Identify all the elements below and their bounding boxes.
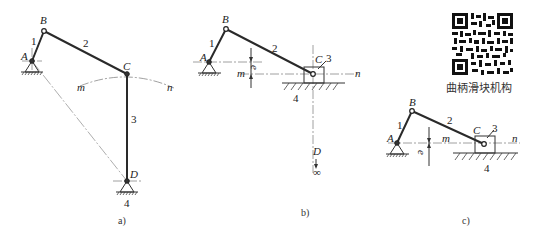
figure-b-slider-crank-derived: e B — [193, 13, 361, 219]
joint-a — [207, 60, 212, 65]
label-n: n — [512, 132, 518, 144]
label-d: D — [312, 145, 321, 157]
joint-a — [395, 141, 400, 146]
label-m: m — [77, 81, 85, 93]
label-link-4: 4 — [293, 92, 299, 104]
label-c: C — [123, 60, 131, 72]
label-a: A — [199, 51, 207, 63]
offset-dimension-e — [427, 127, 431, 166]
joint-b — [42, 29, 47, 34]
label-c: C — [315, 53, 323, 65]
ground-guide-icon — [453, 153, 518, 160]
caption-c: c) — [462, 215, 470, 227]
label-n: n — [355, 67, 361, 79]
label-infinity: ∞ — [313, 166, 321, 178]
label-link-2: 2 — [83, 37, 89, 49]
ground-guide-icon — [282, 83, 345, 90]
label-link-1: 1 — [31, 35, 37, 47]
label-c: C — [473, 124, 481, 136]
joint-c — [482, 142, 487, 147]
label-link-3: 3 — [131, 113, 137, 125]
label-d: D — [129, 168, 138, 180]
frame-line-ad — [32, 61, 127, 181]
label-m: m — [237, 67, 245, 79]
figure-c-offset-slider-crank: e B 1 A 2 m — [386, 96, 520, 227]
joint-d — [125, 179, 130, 184]
label-offset-e: e — [249, 65, 261, 70]
label-a: A — [20, 50, 28, 62]
label-link-2: 2 — [272, 42, 278, 54]
label-link-3: 3 — [326, 52, 332, 64]
label-link-4: 4 — [124, 197, 130, 209]
label-a: A — [386, 132, 394, 144]
qr-caption: 曲柄滑块机构 — [446, 81, 512, 95]
joint-a — [30, 59, 35, 64]
label-offset-e: e — [416, 150, 428, 155]
caption-a: a) — [118, 215, 126, 227]
label-link-3: 3 — [492, 122, 498, 134]
label-link-4: 4 — [484, 162, 490, 174]
label-link-1: 1 — [397, 119, 403, 131]
figure-a-four-bar-linkage: B 1 A 2 C m n 3 D 4 a) — [20, 14, 174, 227]
joint-c — [125, 72, 130, 77]
label-n: n — [167, 81, 173, 93]
label-link-1: 1 — [209, 37, 215, 49]
label-b: B — [409, 96, 416, 108]
label-m: m — [442, 132, 450, 144]
joint-b — [410, 109, 415, 114]
joint-c — [311, 72, 316, 77]
label-link-2: 2 — [447, 114, 453, 126]
joint-b — [224, 27, 229, 32]
label-b: B — [222, 13, 229, 25]
qr-code-icon — [452, 13, 513, 75]
caption-b: b) — [301, 207, 309, 219]
label-b: B — [40, 14, 47, 26]
